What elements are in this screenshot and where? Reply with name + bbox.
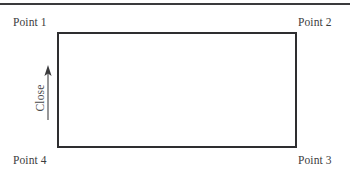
horizontal-divider <box>0 3 350 5</box>
diagram-canvas: Point 1 Point 2 Point 4 Point 3 Close <box>0 0 350 174</box>
point-2-label: Point 2 <box>298 16 332 28</box>
point-4-label: Point 4 <box>13 154 47 166</box>
point-1-label: Point 1 <box>13 16 47 28</box>
rectangle-outline <box>57 32 297 148</box>
point-3-label: Point 3 <box>298 154 332 166</box>
close-axis-label: Close <box>34 84 46 111</box>
